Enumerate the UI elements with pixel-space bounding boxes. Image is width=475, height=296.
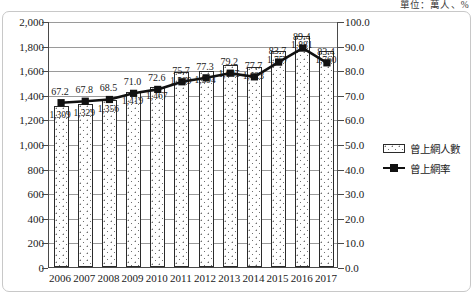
y-axis-right-tick [338,47,344,48]
bar-value-label: 1,419 [122,96,143,106]
line-value-label: 77.7 [245,60,263,71]
y-axis-right-tick [338,268,344,269]
y-axis-left-tick-label: 1,800 [19,41,44,53]
gridline [49,96,337,97]
bar [295,36,310,267]
x-axis-tick-label: 2017 [315,272,337,284]
line-value-label: 71.0 [124,76,142,87]
bar-value-label: 1,329 [74,108,95,118]
line-value-label: 83.7 [269,45,287,56]
y-axis-left-tick-label: 1,400 [19,90,44,102]
y-axis-right-tick-label: 70.0 [345,90,364,102]
y-axis-right-tick [338,71,344,72]
bar [54,106,69,267]
y-axis-right-tick-label: 0.0 [345,262,359,274]
bar [102,100,117,267]
bar [126,92,141,267]
bar [199,71,214,267]
line-value-label: 77.3 [196,61,214,72]
y-axis-right-tick [338,170,344,171]
y-axis-right-tick [338,194,344,195]
bar [150,87,165,267]
y-axis-left-tick-label: 1,600 [19,65,44,77]
y-axis-left-tick-label: 1,200 [19,114,44,126]
gridline [49,22,337,23]
bar-value-label: 1,645 [219,69,240,79]
bar [247,67,262,267]
x-axis-tick-label: 2011 [170,272,192,284]
bar [78,104,93,267]
y-axis-right-tick-label: 40.0 [345,164,364,176]
line-value-label: 79.2 [221,56,239,67]
legend-item-label: 曾上網人數 [410,141,460,156]
unit-caption: 單位：萬人、% [400,0,469,11]
y-axis-right-tick-label: 20.0 [345,213,364,225]
x-axis-tick-label: 2006 [49,272,71,284]
y-axis-right-tick [338,120,344,121]
bar [271,51,286,267]
x-axis-tick-label: 2014 [242,272,264,284]
y-axis-left-tick-label: 2,000 [19,16,44,28]
bar-value-label: 1,623 [243,71,264,81]
bar [319,51,334,267]
y-axis-right-tick [338,243,344,244]
legend-line-swatch-icon [383,164,405,173]
y-axis-right-tick-label: 100.0 [345,16,370,28]
line-value-label: 72.6 [148,72,166,83]
y-axis-right-tick [338,96,344,97]
y-axis-left-tick-label: 1,000 [19,139,44,151]
line-value-label: 68.5 [100,82,118,93]
x-axis-tick-label: 2007 [73,272,95,284]
y-axis-right-tick [338,145,344,146]
x-axis-tick-label: 2015 [267,272,289,284]
gridline [49,71,337,72]
chart-legend: 曾上網人數曾上網率 [383,138,469,178]
line-value-label: 67.8 [76,84,94,95]
bar-value-label: 1,757 [267,55,288,65]
legend-item-bars[interactable]: 曾上網人數 [383,138,469,158]
x-axis-tick-label: 2008 [97,272,119,284]
line-value-label: 83.4 [317,46,335,57]
bar-value-label: 1,356 [98,104,119,114]
line-value-label: 67.2 [51,86,69,97]
y-axis-right-tick-label: 50.0 [345,139,364,151]
y-axis-right-tick-label: 60.0 [345,114,364,126]
x-axis-tick-label: 2012 [194,272,216,284]
bar [223,65,238,267]
bar-value-label: 1,594 [194,75,215,85]
x-axis-tick-label: 2016 [291,272,313,284]
plot-area [48,22,338,268]
y-axis-right-tick [338,219,344,220]
y-axis-right-tick-label: 30.0 [345,188,364,200]
line-value-label: 89.4 [293,31,311,42]
bar [174,72,189,267]
x-axis-tick-label: 2013 [218,272,240,284]
x-axis-tick-label: 2009 [122,272,144,284]
y-axis-right-tick-label: 90.0 [345,41,364,53]
legend-item-label: 曾上網率 [410,161,450,176]
y-axis-right-tick-label: 10.0 [345,237,364,249]
chart-figure: 單位：萬人、% 02004006008001,0001,2001,4001,60… [0,0,475,296]
line-value-label: 75.7 [172,65,190,76]
bar-value-label: 1,467 [146,91,167,101]
legend-bar-swatch-icon [383,144,405,153]
y-axis-right-tick [338,22,344,23]
bar-value-label: 1,589 [170,76,191,86]
legend-item-line[interactable]: 曾上網率 [383,158,469,178]
bar-value-label: 1,309 [49,110,70,120]
x-axis-tick-label: 2010 [146,272,168,284]
y-axis-right-tick-label: 80.0 [345,65,364,77]
y-axis-left-tick [42,268,48,269]
